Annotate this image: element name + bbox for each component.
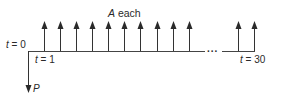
ellipsis: ... [207, 44, 218, 54]
payment-arrow [187, 21, 193, 51]
cash-flow-diagram [0, 0, 283, 103]
payment-arrow [58, 21, 64, 51]
payment-arrow [138, 21, 144, 51]
payment-arrow [106, 21, 112, 51]
payment-arrow [90, 21, 96, 51]
payment-arrow [252, 21, 258, 51]
payment-arrow [236, 21, 242, 51]
annuity-arrows [42, 21, 258, 51]
payment-arrow [122, 21, 128, 51]
payment-arrow [155, 21, 161, 51]
payment-arrow [171, 21, 177, 51]
annuity-label: A each [108, 8, 141, 18]
t30-label: t = 30 [240, 55, 265, 65]
payment-arrow [42, 21, 48, 51]
t0-label: t = 0 [6, 40, 26, 50]
present-value-arrow [26, 51, 32, 93]
payment-arrow [74, 21, 80, 51]
present-value-label: P [33, 84, 40, 94]
t1-label: t = 1 [35, 55, 55, 65]
